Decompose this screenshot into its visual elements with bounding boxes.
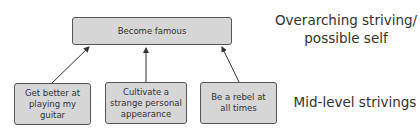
bottom-box-text: Cultivate a strange personal appearance <box>109 87 183 120</box>
bottom-box-text: Be a rebel at all times <box>211 92 266 114</box>
overarching-label-line1: Overarching striving/ <box>272 11 420 29</box>
overarching-label: Overarching striving/ possible self <box>272 11 420 47</box>
arrow-rebel-to-famous <box>222 47 239 82</box>
bottom-box-guitar: Get better at playing my guitar <box>14 83 91 125</box>
arrow-guitar-to-famous <box>52 47 89 83</box>
bottom-box-rebel: Be a rebel at all times <box>200 82 277 124</box>
top-box-text: Become famous <box>118 26 187 37</box>
bottom-box-appearance: Cultivate a strange personal appearance <box>105 82 187 124</box>
overarching-label-line2: possible self <box>272 29 420 47</box>
mid-level-label: Mid-level strivings <box>290 93 420 111</box>
top-box-become-famous: Become famous <box>72 17 232 45</box>
bottom-box-text: Get better at playing my guitar <box>18 88 87 121</box>
